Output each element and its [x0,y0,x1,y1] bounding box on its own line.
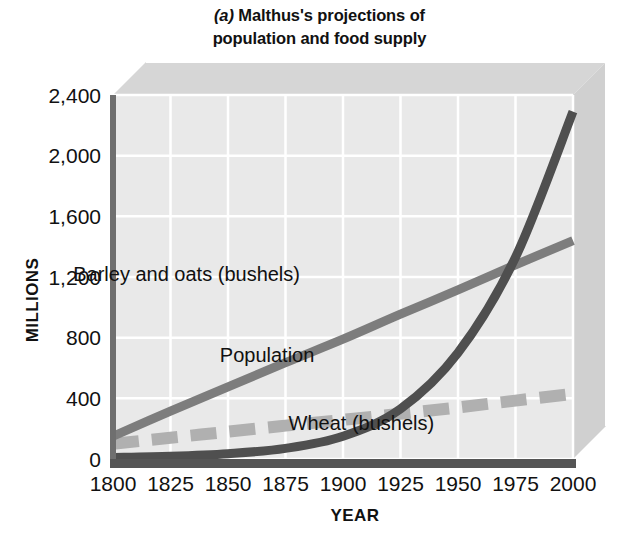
series-annotation-label: Barley and oats (bushels) [73,263,300,285]
x-tick-label: 2000 [550,472,597,495]
x-tick-label: 1825 [147,472,194,495]
x-tick-label: 1950 [435,472,482,495]
plot-depth-top-face [113,62,606,95]
x-tick-label: 1925 [377,472,424,495]
x-tick-label: 1800 [90,472,137,495]
y-axis-title: MILLIONS [23,258,42,342]
plot-depth-right-face [573,62,606,459]
y-tick-label: 400 [66,387,101,410]
x-tick-label: 1875 [262,472,309,495]
x-axis-tick-labels: 180018251850187519001925195019752000 [90,472,597,495]
y-tick-label: 2,000 [48,144,101,167]
x-tick-label: 1900 [320,472,367,495]
x-axis-baseline [110,459,576,468]
figure-container: (a) Malthus's projections of population … [0,0,639,544]
series-annotation-label: Wheat (bushels) [289,412,435,434]
y-tick-label: 2,400 [48,84,101,107]
chart-svg: 04008001,2001,6002,0002,400 180018251850… [0,0,639,544]
x-tick-label: 1975 [492,472,539,495]
x-axis-title: YEAR [331,506,380,525]
y-tick-label: 1,600 [48,205,101,228]
series-annotation-label: Population [220,344,315,366]
y-tick-label: 0 [89,448,101,471]
y-tick-label: 800 [66,326,101,349]
x-tick-label: 1850 [205,472,252,495]
